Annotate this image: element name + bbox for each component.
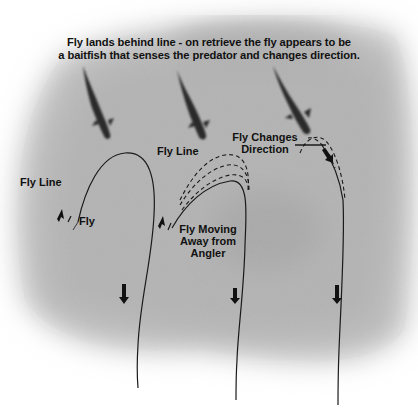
label-fly: Fly bbox=[79, 215, 95, 227]
label-changes-line2: Direction bbox=[230, 143, 300, 155]
label-changes-line1: Fly Changes bbox=[230, 131, 300, 143]
label-fly-moving-away: Fly Moving Away from Angler bbox=[172, 223, 244, 259]
diagram-stage: Fly lands behind line - on retrieve the … bbox=[0, 0, 418, 415]
label-fly-changes-direction: Fly Changes Direction bbox=[230, 131, 300, 155]
caption-line-1: Fly lands behind line - on retrieve the … bbox=[0, 36, 418, 49]
label-fly-moving-line2: Away from bbox=[172, 235, 244, 247]
label-fly-moving-line3: Angler bbox=[172, 247, 244, 259]
label-fly-moving-line1: Fly Moving bbox=[172, 223, 244, 235]
water-background bbox=[17, 21, 413, 361]
label-fly-line-1: Fly Line bbox=[20, 176, 62, 188]
caption-line-2: a baitfish that senses the predator and … bbox=[0, 49, 418, 62]
label-fly-line-2: Fly Line bbox=[157, 145, 199, 157]
diagram-caption: Fly lands behind line - on retrieve the … bbox=[0, 36, 418, 62]
diagram-canvas bbox=[0, 0, 418, 415]
